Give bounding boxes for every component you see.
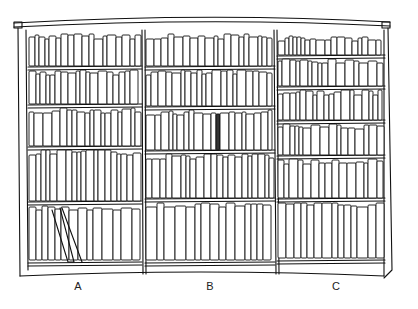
book [190,38,198,66]
book [29,155,36,201]
book [362,37,368,55]
book [224,34,231,66]
book [294,203,301,258]
book [122,35,130,66]
book [189,110,194,150]
book [319,163,325,198]
shelf-a-5 [28,262,142,263]
book [164,207,175,260]
book [98,71,107,104]
book [278,94,283,120]
book [269,158,274,198]
book [66,150,72,201]
book [214,36,218,66]
book [278,160,284,198]
book [332,203,338,258]
book [68,73,76,104]
book [242,154,248,198]
book [166,72,172,106]
book [350,90,354,120]
shelf-c-6 [277,260,385,261]
book [235,157,242,198]
book [169,111,173,150]
book [305,40,310,55]
book [296,61,300,86]
book [368,159,377,198]
book [203,114,211,150]
book [259,72,267,106]
book [325,40,331,55]
book [190,159,196,198]
book [86,150,94,201]
book [312,62,318,86]
shelf-edge-b-1 [145,69,275,70]
book [125,71,130,104]
book [173,114,177,150]
bookcase-sketch [0,0,418,309]
book [85,113,90,146]
book [337,37,345,55]
book [98,150,105,201]
book [39,37,45,66]
book [121,208,132,260]
book [290,93,296,120]
book [369,125,377,155]
book [228,155,235,198]
book [352,41,358,55]
book [322,63,328,86]
book [220,113,229,150]
book [61,72,68,104]
book [308,61,312,86]
book [72,152,77,201]
book [267,73,272,106]
book [278,61,282,86]
book [341,90,350,120]
book [249,37,258,66]
book [151,72,158,106]
book [226,203,235,260]
book [111,152,117,201]
book [168,34,174,66]
book [311,125,320,155]
frame-left-outer [18,28,20,276]
book [359,63,368,86]
divider-a-b [142,30,143,274]
shelf-edge-c-6 [277,263,385,264]
book [303,128,311,155]
book [105,150,111,201]
book [231,35,239,66]
book [356,162,364,198]
book [300,60,308,86]
book [310,39,316,55]
book [132,209,140,260]
book [311,160,319,198]
shelf-b-5 [145,262,275,263]
book [278,203,286,258]
shelf-edge-a-4 [28,204,142,205]
book [347,163,356,198]
book [263,205,271,260]
book [52,111,60,146]
book [133,153,141,201]
book [36,210,42,260]
book [336,63,345,86]
book [376,203,384,258]
book [46,150,50,201]
book [127,155,133,201]
section-label-b: B [206,280,213,292]
book [86,72,90,104]
book [130,39,135,66]
book [93,208,102,260]
book [35,35,39,66]
book [254,113,261,150]
book [197,70,202,106]
shelf-edge-b-5 [145,265,275,266]
book [177,115,184,150]
book [341,128,348,155]
shelf-edge-c-5 [277,201,385,202]
book [43,113,52,146]
book [227,70,233,106]
book [252,154,258,198]
book [242,112,246,150]
book [90,73,98,104]
